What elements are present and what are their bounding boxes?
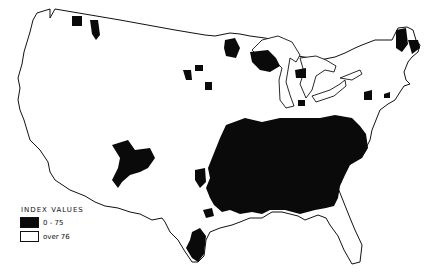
legend-label-high: over 76 [43, 233, 70, 241]
legend-item-low: 0 - 75 [20, 217, 84, 228]
legend-item-high: over 76 [20, 231, 84, 242]
legend-label-low: 0 - 75 [43, 219, 63, 227]
legend-swatch-white [20, 231, 39, 242]
legend: INDEX VALUES 0 - 75 over 76 [20, 206, 84, 242]
legend-swatch-black [20, 217, 39, 228]
legend-title: INDEX VALUES [21, 206, 84, 214]
